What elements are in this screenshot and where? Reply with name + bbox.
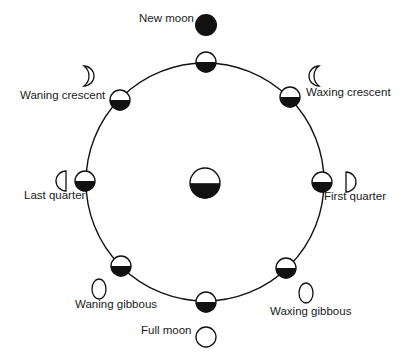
earth-icon bbox=[190, 168, 220, 199]
full-moon-view-icon bbox=[196, 327, 216, 347]
label-new-moon: New moon bbox=[139, 13, 194, 25]
waxing-gibbous-view-icon bbox=[299, 283, 313, 303]
last-quarter-view-icon bbox=[56, 171, 66, 191]
waning-crescent-view-icon bbox=[84, 66, 94, 86]
waning-gibbous-view-icon bbox=[92, 279, 106, 299]
label-full-moon: Full moon bbox=[141, 325, 192, 337]
label-first-quarter: First quarter bbox=[324, 191, 386, 203]
moon-phases-diagram: New moon Waxing crescent First quarter W… bbox=[0, 0, 404, 361]
label-last-quarter: Last quarter bbox=[24, 190, 85, 202]
label-waxing-gibbous: Waxing gibbous bbox=[270, 306, 351, 318]
waxing-crescent-view-icon bbox=[309, 66, 319, 86]
orbit-moon-waning-gibbous-icon bbox=[111, 256, 131, 277]
orbit-moon-waning-crescent-icon bbox=[110, 90, 130, 111]
label-waning-crescent: Waning crescent bbox=[20, 90, 105, 102]
label-waning-gibbous: Waning gibbous bbox=[75, 299, 157, 311]
earth-globe bbox=[190, 168, 220, 199]
orbit-moon-waxing-gibbous-icon bbox=[276, 258, 296, 279]
orbit-moon-new-moon-icon bbox=[196, 52, 216, 73]
label-waxing-crescent: Waxing crescent bbox=[306, 87, 391, 99]
orbit-moon-full-moon-icon bbox=[196, 292, 216, 313]
orbit-moon-waxing-crescent-icon bbox=[280, 87, 300, 108]
first-quarter-view-icon bbox=[346, 172, 356, 192]
new-moon-view-icon bbox=[195, 14, 217, 36]
